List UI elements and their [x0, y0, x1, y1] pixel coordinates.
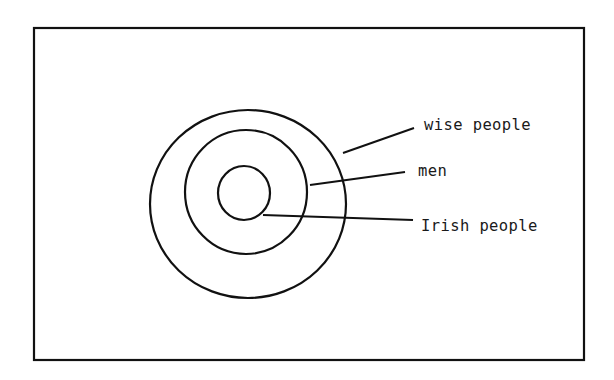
irish-people-leader-line — [263, 215, 413, 220]
men-leader-line — [310, 172, 405, 185]
irish-people-label: Irish people — [421, 219, 538, 235]
irish-people-circle — [218, 166, 270, 220]
men-circle — [185, 130, 307, 254]
wise-people-label: wise people — [424, 118, 531, 134]
wise-people-leader-line — [343, 128, 414, 153]
diagram-frame — [34, 28, 584, 360]
nested-sets-diagram — [0, 0, 614, 380]
men-label: men — [418, 164, 447, 180]
wise-people-circle — [150, 110, 346, 298]
